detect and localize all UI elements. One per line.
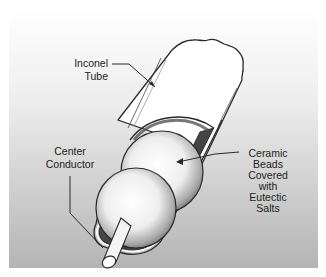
svg-text:Inconel: Inconel bbox=[74, 57, 108, 69]
sensor-diagram: Inconel Tube Center Conductor Ceramic Be… bbox=[0, 0, 326, 277]
svg-text:Tube: Tube bbox=[84, 70, 108, 82]
svg-text:Salts: Salts bbox=[256, 202, 279, 214]
svg-text:Conductor: Conductor bbox=[46, 158, 95, 170]
ceramic-bead-lower bbox=[96, 168, 176, 248]
svg-text:Center: Center bbox=[54, 145, 86, 157]
